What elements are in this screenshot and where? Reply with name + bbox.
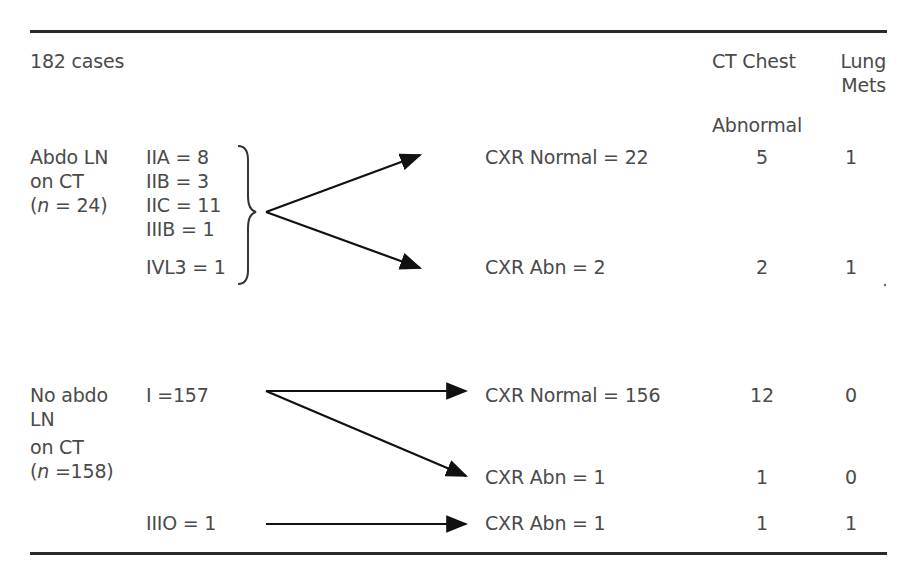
- arrow-icon: [266, 391, 466, 476]
- arrow-icon: [266, 212, 420, 268]
- stray-dot: [884, 284, 886, 286]
- right-brace-icon: [238, 146, 256, 284]
- flow-arrows: [0, 0, 910, 570]
- arrow-icon: [266, 155, 420, 212]
